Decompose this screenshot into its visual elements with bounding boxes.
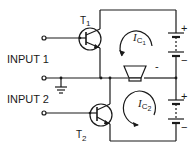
input2-wire bbox=[42, 111, 91, 115]
battery2-plus-label: + bbox=[181, 90, 187, 102]
ground-symbol bbox=[55, 78, 67, 93]
middle-minus-label: - bbox=[155, 60, 159, 72]
input1-label: INPUT 1 bbox=[7, 53, 49, 65]
speaker bbox=[124, 66, 146, 81]
battery1-plus-label: + bbox=[181, 22, 187, 34]
ic2-label: IC2 bbox=[137, 97, 151, 112]
transistor-t2 bbox=[90, 104, 112, 141]
battery1-minus-label: − bbox=[181, 54, 187, 66]
common-terminal[interactable] bbox=[42, 76, 46, 80]
input2-label: INPUT 2 bbox=[7, 93, 49, 105]
circuit-diagram: INPUT 1 INPUT 2 T1 T2 IC1 IC2 + − + − - bbox=[0, 0, 196, 149]
input2-terminal[interactable] bbox=[42, 111, 46, 115]
input1-wire bbox=[42, 36, 80, 40]
input1-terminal[interactable] bbox=[42, 36, 46, 40]
t1-label: T1 bbox=[80, 15, 91, 28]
t2-label: T2 bbox=[76, 129, 87, 143]
battery2-minus-label: − bbox=[181, 121, 187, 133]
